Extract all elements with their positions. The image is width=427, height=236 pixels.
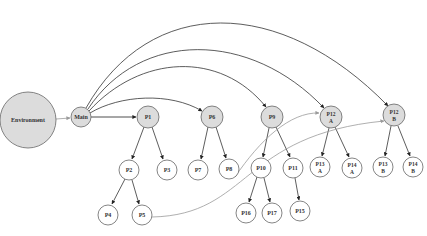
node-p11[interactable]: P11: [283, 158, 303, 178]
edge-p9-p10: [263, 128, 269, 157]
edge-p2-p4: [112, 179, 125, 204]
svg-text:Environment: Environment: [11, 117, 45, 123]
svg-text:P8: P8: [226, 166, 233, 172]
edge-p10-p17: [264, 178, 270, 202]
node-p6[interactable]: P6: [201, 106, 223, 128]
call-graph-diagram: Environment Main P1 P6 P9 P12 A P12 B: [0, 0, 427, 236]
node-p12a[interactable]: P12 A: [320, 106, 342, 128]
edge-p1-p2: [132, 127, 144, 159]
node-p1[interactable]: P1: [137, 106, 159, 128]
edge-main-p12b: [86, 23, 388, 108]
svg-text:P3: P3: [164, 167, 171, 173]
svg-text:P4: P4: [105, 212, 112, 218]
svg-text:P12: P12: [327, 111, 336, 117]
node-p4[interactable]: P4: [98, 205, 118, 225]
svg-text:B: B: [392, 116, 396, 122]
svg-text:P16: P16: [241, 210, 251, 216]
svg-text:A: A: [329, 118, 333, 124]
edge-p11-p15: [295, 178, 299, 200]
svg-text:P14: P14: [409, 161, 418, 167]
svg-text:P9: P9: [269, 114, 276, 120]
edge-main-p9: [89, 67, 266, 111]
edge-p9-p11: [276, 127, 290, 157]
node-p10[interactable]: P10: [251, 158, 271, 178]
edges: [56, 23, 410, 217]
node-p13a[interactable]: P13 A: [310, 157, 330, 177]
nodes: Environment Main P1 P6 P9 P12 A P12 B: [0, 92, 423, 225]
edge-environment-main: [56, 118, 70, 119]
edge-p6-p8: [216, 127, 226, 158]
svg-text:P17: P17: [267, 210, 277, 216]
node-p16[interactable]: P16: [236, 203, 256, 223]
node-p9[interactable]: P9: [261, 106, 283, 128]
node-p15[interactable]: P15: [290, 201, 310, 221]
svg-text:P1: P1: [145, 114, 152, 120]
svg-text:P7: P7: [195, 167, 202, 173]
svg-text:P6: P6: [209, 114, 216, 120]
edge-p6-p7: [201, 127, 208, 159]
node-p8[interactable]: P8: [219, 159, 239, 179]
edge-p12a-p14a: [335, 127, 349, 157]
node-p7[interactable]: P7: [188, 160, 208, 180]
node-p3[interactable]: P3: [157, 160, 177, 180]
edge-p1-p3: [152, 127, 163, 159]
edge-p12b-p14b: [398, 126, 410, 156]
svg-text:P11: P11: [288, 165, 297, 171]
svg-text:P10: P10: [256, 165, 266, 171]
node-p14b[interactable]: P14 B: [403, 157, 423, 177]
svg-text:Main: Main: [74, 114, 88, 120]
svg-text:B: B: [381, 168, 385, 174]
node-p2[interactable]: P2: [119, 160, 139, 180]
edge-p12b-p13b: [385, 126, 391, 156]
node-environment[interactable]: Environment: [0, 92, 56, 148]
node-p12b[interactable]: P12 B: [383, 104, 405, 126]
svg-text:P15: P15: [295, 208, 305, 214]
svg-text:P5: P5: [139, 212, 146, 218]
svg-text:P14: P14: [348, 162, 357, 168]
node-p17[interactable]: P17: [262, 203, 282, 223]
node-p5[interactable]: P5: [132, 205, 152, 225]
edge-p10-p16: [249, 177, 257, 202]
svg-text:P12: P12: [390, 109, 399, 115]
svg-text:B: B: [411, 168, 415, 174]
node-p13b[interactable]: P13 B: [373, 157, 393, 177]
node-p14a[interactable]: P14 A: [342, 158, 362, 178]
svg-text:A: A: [350, 169, 354, 175]
svg-text:P13: P13: [379, 161, 388, 167]
svg-text:P2: P2: [126, 167, 133, 173]
svg-text:P13: P13: [316, 161, 325, 167]
node-main[interactable]: Main: [71, 107, 91, 127]
svg-text:A: A: [318, 168, 322, 174]
edge-p2-p5: [132, 180, 139, 204]
